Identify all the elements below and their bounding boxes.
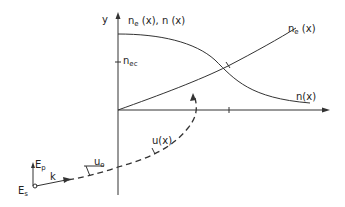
ux-marker xyxy=(152,148,155,154)
y-axis-label: y xyxy=(102,15,108,25)
n-ec-sub: ec xyxy=(129,60,137,68)
y-axis-arrow-icon xyxy=(116,12,121,19)
u0-label: uo xyxy=(94,157,105,169)
curve-n-label: n(x) xyxy=(296,92,316,102)
ux-label: u(x) xyxy=(152,136,172,146)
curve-ne-label: ne (x) xyxy=(288,24,316,36)
curve-n xyxy=(118,34,310,103)
es-label: Es xyxy=(18,186,28,198)
ep-label: Ep xyxy=(35,160,46,172)
x-axis-arrow-icon xyxy=(322,108,330,113)
curve-ne xyxy=(118,28,296,110)
header-label: ne (x), n (x) xyxy=(128,16,185,28)
u0-sub: o xyxy=(100,161,104,169)
curve-ne-rest: (x) xyxy=(299,23,316,34)
ep-sub: p xyxy=(41,164,45,172)
header-label-rest: (x), n (x) xyxy=(139,15,186,26)
n-ec-label: nec xyxy=(123,56,138,68)
trajectory-arrow-icon xyxy=(190,93,196,101)
u0-marker xyxy=(86,166,90,176)
es-sub: s xyxy=(24,190,28,198)
k-label: k xyxy=(50,172,56,182)
